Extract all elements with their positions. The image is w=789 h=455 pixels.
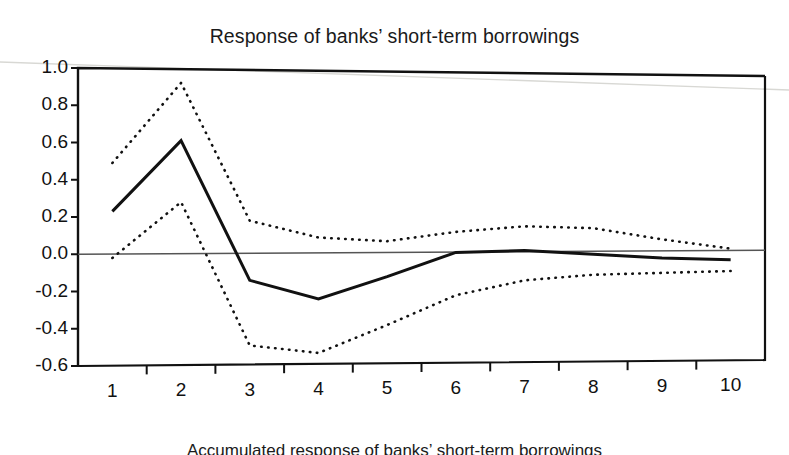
figure-caption: Accumulated response of banks’ short-ter… [0,441,789,455]
zero-line [78,250,765,254]
x-tick-label: 4 [313,378,324,400]
x-tick-label: 7 [519,376,530,398]
x-tick-label: 6 [451,377,462,399]
series-lines [112,83,730,353]
y-tick-label: -0.4 [0,317,68,339]
plot-area [0,0,789,455]
y-tick-label: 0.4 [0,168,68,190]
x-tick-label: 10 [720,374,741,396]
x-tick-label: 2 [176,379,187,401]
y-tick-label: 1.0 [0,56,68,78]
y-tick-label: 0.0 [0,242,68,264]
figure-container: Response of banks’ short-term borrowings… [0,0,789,455]
x-tick-label: 3 [244,379,255,401]
y-tick-label: 0.6 [0,131,68,153]
y-tick-label: -0.6 [0,354,68,376]
x-tick-label: 1 [107,380,118,402]
y-tick-label: 0.2 [0,205,68,227]
axis-frame [78,68,765,366]
series-path-0 [112,141,730,299]
y-tick-label: 0.8 [0,93,68,115]
x-tick-label: 8 [588,376,599,398]
x-tick-label: 5 [382,377,393,399]
y-tick-label: -0.2 [0,280,68,302]
x-tick-label: 9 [657,375,668,397]
series-path-2 [112,202,730,353]
tick-marks [71,68,696,374]
series-path-1 [112,83,730,249]
